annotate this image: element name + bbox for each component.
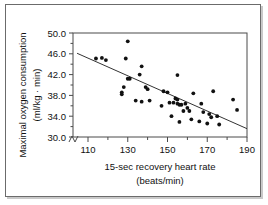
data-point — [138, 73, 142, 77]
data-point — [126, 39, 130, 43]
figure-container: 50.0 46.0 42.0 38.0 34.0 30.0 110 130 15… — [0, 0, 268, 205]
data-point — [122, 85, 126, 89]
data-point — [201, 110, 205, 114]
data-point — [189, 117, 193, 121]
data-point — [187, 109, 191, 113]
data-point — [162, 89, 166, 93]
data-point — [217, 123, 221, 127]
data-point — [134, 99, 138, 103]
data-point — [168, 101, 172, 105]
data-point — [128, 77, 132, 81]
data-point — [176, 98, 180, 102]
y-axis-ticks — [69, 33, 73, 137]
x-tick-label-150: 150 — [160, 144, 176, 155]
y-tick-label-38: 38.0 — [48, 90, 67, 101]
data-point — [140, 64, 144, 68]
data-point — [180, 103, 184, 107]
data-point — [231, 98, 235, 102]
data-point — [104, 58, 108, 62]
x-axis-title-line2: (beats/min) — [136, 175, 184, 186]
data-point — [215, 114, 219, 118]
data-point — [182, 109, 186, 113]
plot-frame — [73, 33, 247, 137]
x-axis-ticks — [88, 137, 247, 142]
data-point — [100, 56, 104, 60]
x-axis-title-line1: 15-sec recovery heart rate — [105, 161, 216, 172]
y-tick-label-30: 30.0 — [48, 132, 67, 143]
data-point — [183, 102, 187, 106]
x-tick-label-190: 190 — [239, 144, 255, 155]
data-point — [146, 87, 150, 91]
data-point — [197, 120, 201, 124]
data-point — [124, 57, 128, 61]
data-point — [185, 106, 189, 110]
data-point — [178, 120, 182, 124]
data-point — [94, 57, 98, 61]
data-point — [166, 90, 170, 94]
data-point — [209, 115, 213, 119]
y-tick-label-42: 42.0 — [48, 69, 67, 80]
data-point — [140, 100, 144, 104]
data-point — [211, 89, 215, 93]
y-axis-title-line2: (ml/kg · min) — [31, 69, 42, 122]
data-point — [191, 91, 195, 95]
y-axis-title-line1: Maximal oxygen consumption — [17, 32, 28, 157]
x-tick-label-110: 110 — [80, 144, 95, 155]
data-point — [148, 99, 152, 103]
data-point — [176, 73, 180, 77]
data-point — [205, 122, 209, 126]
data-point — [199, 102, 203, 106]
y-tick-label-46: 46.0 — [48, 48, 67, 59]
plot-svg: 50.0 46.0 42.0 38.0 34.0 30.0 110 130 15… — [0, 0, 268, 205]
data-point — [172, 101, 176, 105]
data-point — [120, 92, 124, 96]
data-point-group — [94, 39, 239, 126]
data-point — [207, 112, 211, 116]
data-point — [235, 108, 239, 112]
data-point — [160, 104, 164, 108]
y-tick-label-50: 50.0 — [48, 28, 67, 39]
data-point — [170, 114, 174, 118]
x-tick-label-130: 130 — [120, 144, 136, 155]
x-tick-label-170: 170 — [199, 144, 215, 155]
y-tick-label-34: 34.0 — [48, 111, 67, 122]
scatter-plot: 50.0 46.0 42.0 38.0 34.0 30.0 110 130 15… — [0, 0, 268, 205]
